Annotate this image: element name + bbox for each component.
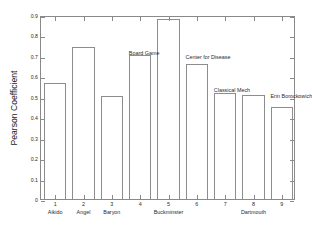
y-tick-mark: [41, 201, 45, 202]
y-tick-mark: [41, 140, 45, 141]
y-tick-mark-right: [290, 119, 294, 120]
x-tick-mark-top: [197, 17, 198, 21]
bar-7: [214, 93, 237, 199]
y-tick-mark-right: [290, 17, 294, 18]
x-tick-mark: [225, 195, 226, 199]
bar-8: [242, 95, 265, 199]
x-tick-label: 3: [110, 202, 113, 207]
x-tick-mark-top: [225, 17, 226, 21]
y-tick-mark-right: [290, 58, 294, 59]
y-tick-label: 0.5: [31, 96, 38, 101]
y-tick-mark-right: [290, 140, 294, 141]
x-tick-label: 7: [224, 202, 227, 207]
x-tick-mark: [197, 195, 198, 199]
y-tick-mark: [41, 58, 45, 59]
y-tick-mark-right: [290, 99, 294, 100]
bar-6: [186, 64, 209, 199]
x-tick-label: 9: [280, 202, 283, 207]
x-tick-label: 5: [167, 202, 170, 207]
y-tick-mark-right: [290, 37, 294, 38]
y-tick-label: 0.3: [31, 137, 38, 142]
x-tick-mark-top: [84, 17, 85, 21]
x-tick-mark: [282, 195, 283, 199]
y-tick-mark: [41, 99, 45, 100]
plot-area: Board GameCenter for DiseaseClassical Me…: [40, 16, 295, 200]
x-tick-mark: [254, 195, 255, 199]
chart-figure: Pearson Coefficient Board GameCenter for…: [0, 0, 312, 235]
bar-4: [129, 55, 152, 199]
bar-3: [101, 96, 124, 199]
bar-5: [157, 19, 180, 199]
category-label: Angel: [77, 210, 91, 215]
x-tick-mark-top: [112, 17, 113, 21]
y-tick-label: 0.8: [31, 35, 38, 40]
x-tick-mark: [112, 195, 113, 199]
bar-annotation: Board Game: [129, 51, 160, 56]
y-tick-mark-right: [290, 181, 294, 182]
category-label: Buckminster: [154, 210, 184, 215]
x-tick-mark: [55, 195, 56, 199]
category-label: Dartmouth: [241, 210, 266, 215]
y-tick-mark: [41, 119, 45, 120]
y-tick-mark-right: [290, 78, 294, 79]
bar-1: [44, 83, 67, 199]
y-tick-mark: [41, 17, 45, 18]
y-tick-mark: [41, 37, 45, 38]
x-tick-mark-top: [282, 17, 283, 21]
y-tick-mark-right: [290, 160, 294, 161]
y-tick-mark: [41, 181, 45, 182]
x-tick-mark: [169, 195, 170, 199]
y-tick-label: 0.4: [31, 117, 38, 122]
y-axis-title: Pearson Coefficient: [10, 71, 19, 146]
y-tick-label: 0.9: [31, 14, 38, 19]
bar-annotation: Classical Mech: [214, 88, 250, 93]
x-tick-mark: [84, 195, 85, 199]
y-tick-mark-right: [290, 201, 294, 202]
x-tick-mark-top: [169, 17, 170, 21]
bar-2: [72, 47, 95, 199]
x-tick-label: 6: [195, 202, 198, 207]
x-tick-mark-top: [254, 17, 255, 21]
y-tick-mark: [41, 160, 45, 161]
y-tick-label: 0.6: [31, 76, 38, 81]
y-tick-label: 0.1: [31, 178, 38, 183]
x-tick-mark: [140, 195, 141, 199]
x-tick-label: 8: [252, 202, 255, 207]
category-label: Baryon: [103, 210, 120, 215]
x-tick-label: 2: [82, 202, 85, 207]
x-tick-label: 4: [139, 202, 142, 207]
category-label: Aikido: [48, 210, 63, 215]
y-tick-label: 0.7: [31, 55, 38, 60]
x-tick-mark-top: [140, 17, 141, 21]
x-tick-mark-top: [55, 17, 56, 21]
bars-layer: [41, 17, 294, 199]
bar-annotation: Center for Disease: [186, 55, 231, 60]
x-tick-label: 1: [54, 202, 57, 207]
y-tick-mark: [41, 78, 45, 79]
y-tick-label: 0: [35, 198, 38, 203]
y-tick-label: 0.2: [31, 158, 38, 163]
bar-9: [271, 107, 294, 199]
